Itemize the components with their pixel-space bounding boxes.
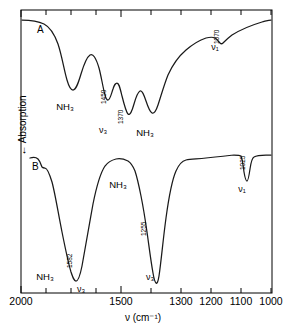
xtick-label-1200: 1200 — [199, 295, 223, 307]
curve-a-value-1370: 1370 — [117, 109, 124, 124]
curve-a-label: A — [37, 24, 44, 35]
top-tick-marks — [21, 10, 271, 17]
x-axis-label: ν (cm⁻¹) — [0, 312, 286, 323]
curve-b-value-1582: 1582 — [66, 253, 73, 268]
x-axis-label-text: ν (cm⁻¹) — [125, 312, 161, 323]
ir-spectrum-figure: ← Absorption ν (cm⁻¹) — [0, 0, 286, 333]
bottom-tick-marks — [21, 286, 271, 293]
curve-a-value-1450: 1450 — [100, 89, 107, 104]
curve-b-label: B — [32, 161, 39, 172]
xtick-label-1000: 1000 — [259, 295, 283, 307]
curve-b-value-1025: 1025 — [239, 155, 246, 170]
y-axis-label: ← Absorption — [17, 66, 28, 186]
curve-b-nh3-label-1: NH₃ — [36, 271, 54, 282]
curve-b-nu3-label-main: ν₃ — [77, 284, 86, 294]
y-axis-arrow-icon: ← — [17, 146, 28, 156]
curve-a-nh3-label-2: NH₃ — [136, 127, 154, 138]
curve-b-nh3-label-2: NH₃ — [109, 179, 127, 190]
xtick-label-1100: 1100 — [230, 295, 253, 307]
plot-area: 2000 1500 1300 1200 1100 1000 A NH₃ 1450… — [0, 0, 286, 333]
curve-a-nh3-label-1: NH₃ — [56, 101, 74, 112]
xtick-label-1500: 1500 — [109, 295, 133, 307]
curve-b-nu1-label: ν₁ — [238, 184, 246, 194]
curve-a-nu3-label: ν₃ — [99, 125, 108, 135]
y-axis-label-text: Absorption — [17, 95, 28, 143]
plot-frame — [21, 10, 272, 293]
curve-a-nu1-label: ν₁ — [211, 42, 219, 52]
curve-b-nu3-label-2: ν₃ — [146, 272, 155, 282]
xtick-label-2000: 2000 — [9, 295, 33, 307]
curve-b-value-1255: 1255 — [140, 221, 147, 236]
xtick-label-1300: 1300 — [169, 295, 193, 307]
